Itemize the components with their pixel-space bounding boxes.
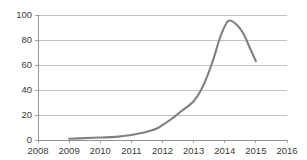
x-tick-labels: 200820092010201120122013201420152016 <box>27 145 297 156</box>
x-tick-label-2011: 2011 <box>121 145 141 156</box>
y-tick-label-60: 60 <box>21 59 32 70</box>
x-tick-label-2009: 2009 <box>59 145 80 156</box>
y-tick-label-40: 40 <box>21 84 32 95</box>
y-tick-labels: 020406080100 <box>16 9 32 145</box>
line-chart: 020406080100 200820092010201120122013201… <box>0 0 307 160</box>
x-tick-label-2013: 2013 <box>183 145 204 156</box>
x-tick-label-2010: 2010 <box>90 145 111 156</box>
chart-canvas: 020406080100 200820092010201120122013201… <box>0 0 307 160</box>
x-tick-label-2012: 2012 <box>152 145 173 156</box>
y-tick-label-80: 80 <box>21 34 32 45</box>
x-tick-label-2016: 2016 <box>276 145 297 156</box>
x-tick-label-2015: 2015 <box>245 145 266 156</box>
data-series <box>69 20 256 138</box>
y-tick-label-20: 20 <box>21 109 32 120</box>
y-tick-label-100: 100 <box>16 9 32 20</box>
x-tick-label-2014: 2014 <box>214 145 235 156</box>
gridlines <box>38 15 287 140</box>
x-tick-label-2008: 2008 <box>27 145 48 156</box>
y-tick-label-0: 0 <box>27 134 32 145</box>
series-line-1 <box>69 20 256 138</box>
